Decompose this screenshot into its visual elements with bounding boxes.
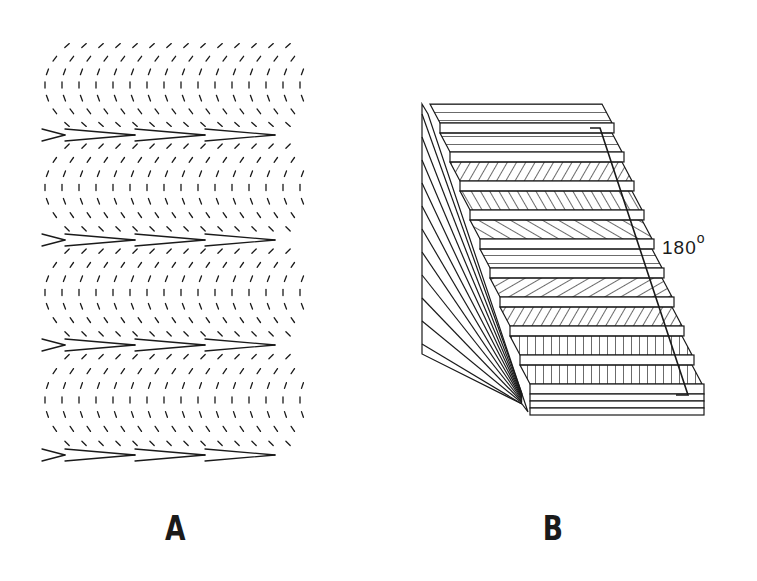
- degree-symbol: o: [697, 230, 706, 246]
- panel-label-a: A: [165, 508, 186, 548]
- panel-b-layer-stack: [422, 104, 704, 415]
- panel-label-b: B: [543, 508, 563, 548]
- angle-value: 180: [662, 237, 697, 258]
- rotation-angle-label: 180o: [662, 234, 706, 259]
- panel-a-arc-field: [42, 44, 304, 461]
- figure-canvas: [0, 0, 757, 581]
